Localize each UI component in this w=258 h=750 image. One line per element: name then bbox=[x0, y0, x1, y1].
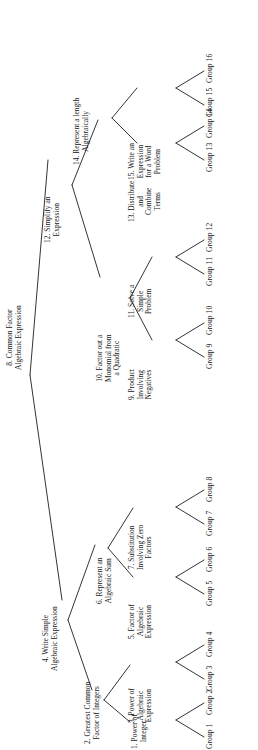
node-14-line2: Algebraically bbox=[82, 98, 91, 165]
leaf-group-8[interactable]: Group 8 bbox=[206, 477, 215, 502]
leaf-group-13-label: Group 13 bbox=[205, 143, 214, 172]
node-5-line3: Expression bbox=[145, 604, 154, 639]
leaf-group-16-label: Group 16 bbox=[205, 54, 214, 83]
node-6-represent-an-algebraic-sum[interactable]: 6. Represent an Algebraic Sum bbox=[96, 557, 113, 604]
node-2-line2: Factor of Integers bbox=[93, 682, 102, 744]
edge-15-g15 bbox=[176, 88, 204, 105]
edge-3-g3 bbox=[176, 662, 204, 679]
node-9-product-involving-negatives[interactable]: 9. Product Involving Negatives bbox=[128, 369, 154, 400]
edge-12-10 bbox=[72, 185, 100, 277]
node-11-solve-a-simple-problem[interactable]: 11. Solve a Simple Problem bbox=[128, 285, 154, 318]
leaf-group-3[interactable]: Group 3 bbox=[206, 666, 215, 691]
node-13-distribute-and-combine-terms[interactable]: 13. Distribute and Combine Terms bbox=[128, 181, 163, 222]
edge-15-g16 bbox=[176, 71, 204, 88]
node-10-line3: a Quadratic bbox=[113, 334, 122, 382]
leaf-group-2-label: Group 2 bbox=[205, 690, 214, 715]
leaf-group-15-label: Group 15 bbox=[205, 88, 214, 117]
leaf-group-1-label: Group 1 bbox=[205, 724, 214, 749]
leaf-group-7-label: Group 7 bbox=[205, 511, 214, 536]
edge-8-12 bbox=[30, 160, 48, 375]
node-7-substitution-involving-zero-factors[interactable]: 7. Substitution Involving Zero Factors bbox=[128, 525, 154, 570]
edge-9-g10 bbox=[176, 323, 204, 340]
node-5-factor-of-algebraic-expression[interactable]: 5. Factor of Algebraic Expression bbox=[128, 604, 154, 639]
node-11-line3: Problem bbox=[145, 285, 154, 318]
node-1-line2: Integer bbox=[140, 714, 149, 749]
leaf-group-5[interactable]: Group 5 bbox=[206, 581, 215, 606]
leaf-group-4[interactable]: Group 4 bbox=[206, 632, 215, 657]
edge-3-g4 bbox=[176, 645, 204, 662]
leaf-group-1[interactable]: Group 1 bbox=[206, 724, 215, 749]
node-2-greatest-common-factor-of-integers[interactable]: 2. Greatest Common Factor of Integers bbox=[84, 682, 101, 744]
leaf-group-6-label: Group 6 bbox=[205, 547, 214, 572]
edge-14-13 bbox=[112, 118, 137, 143]
leaf-group-7[interactable]: Group 7 bbox=[206, 511, 215, 536]
edge-5-g5 bbox=[176, 577, 204, 594]
node-4-write-simple-algebraic-expression[interactable]: 4. Write Simple Algebraic Expression bbox=[42, 606, 59, 671]
edge-13-g14 bbox=[176, 126, 204, 143]
node-9-line3: Negatives bbox=[145, 369, 154, 400]
leaf-group-6[interactable]: Group 6 bbox=[206, 547, 215, 572]
edge-8-4 bbox=[30, 375, 62, 600]
leaf-group-2[interactable]: Group 2 bbox=[206, 690, 215, 715]
node-15-line4: Problem bbox=[154, 143, 163, 180]
node-13-line4: Terms bbox=[154, 181, 163, 222]
node-1-power-of-integer[interactable]: 1. Power of Integer bbox=[131, 714, 148, 749]
leaf-group-4-label: Group 4 bbox=[205, 632, 214, 657]
node-7-line3: Factors bbox=[145, 525, 154, 570]
leaf-group-12[interactable]: Group 12 bbox=[206, 223, 215, 252]
edge-4-2 bbox=[68, 620, 92, 690]
leaf-group-11-label: Group 11 bbox=[205, 257, 214, 286]
node-4-line2: Algebraic Expression bbox=[51, 606, 60, 671]
edge-1-g2 bbox=[176, 703, 204, 720]
edge-11-g12 bbox=[176, 240, 204, 257]
leaf-group-12-label: Group 12 bbox=[205, 223, 214, 252]
node-12-simplify-an-expression[interactable]: 12. Simplify an Expression bbox=[44, 196, 61, 243]
edge-7-g8 bbox=[176, 490, 204, 507]
edge-4-6 bbox=[68, 545, 95, 620]
leaf-group-15[interactable]: Group 15 bbox=[206, 88, 215, 117]
leaf-group-11[interactable]: Group 11 bbox=[206, 257, 215, 286]
leaf-group-9-label: Group 9 bbox=[205, 344, 214, 369]
leaf-group-3-label: Group 3 bbox=[205, 666, 214, 691]
edge-5-g6 bbox=[176, 560, 204, 577]
edge-7-g7 bbox=[176, 507, 204, 524]
leaf-group-13[interactable]: Group 13 bbox=[206, 143, 215, 172]
edge-14-15 bbox=[112, 88, 137, 118]
leaf-group-10[interactable]: Group 10 bbox=[206, 306, 215, 335]
tree-diagram: 8. Common Factor Algebraic Expression 12… bbox=[0, 0, 258, 750]
leaf-group-9[interactable]: Group 9 bbox=[206, 344, 215, 369]
leaf-group-10-label: Group 10 bbox=[205, 306, 214, 335]
leaf-group-16[interactable]: Group 16 bbox=[206, 54, 215, 83]
node-14-represent-a-length-algebraically[interactable]: 14. Represent a length Algebraically bbox=[73, 98, 90, 165]
node-10-factor-out-a-monomial-from-a-quadratic[interactable]: 10. Factor out a Monomial from a Quadrat… bbox=[96, 334, 122, 382]
node-6-line2: Algebraic Sum bbox=[105, 557, 114, 604]
edge-9-g9 bbox=[176, 340, 204, 357]
node-12-line2: Expression bbox=[53, 196, 62, 243]
leaf-group-8-label: Group 8 bbox=[205, 477, 214, 502]
node-8-line2: Algebraic Expression bbox=[15, 305, 24, 370]
edge-1-g1 bbox=[176, 720, 204, 737]
leaf-group-5-label: Group 5 bbox=[205, 581, 214, 606]
node-8-common-factor-algebraic-expression[interactable]: 8. Common Factor Algebraic Expression bbox=[6, 305, 23, 370]
edge-13-g13 bbox=[176, 143, 204, 160]
node-15-write-an-expression-for-a-word-problem[interactable]: 15. Write an Expression for a Word Probl… bbox=[128, 143, 163, 180]
edge-11-g11 bbox=[176, 257, 204, 274]
